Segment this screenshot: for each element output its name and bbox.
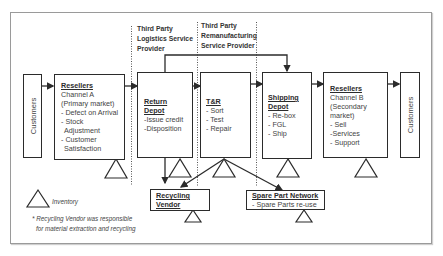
tr-line: - Sort xyxy=(206,106,250,115)
resellers-b-title: Resellers xyxy=(330,84,387,93)
return-depot-line: -Issue credit xyxy=(144,115,192,124)
return-depot-line: -Disposition xyxy=(144,124,192,133)
spare-part-network-title: Spare Part Network xyxy=(252,191,324,200)
shipping-depot-line: - Ship xyxy=(268,129,311,138)
legend-inventory-triangle xyxy=(27,190,49,207)
resellers-a-line: (Primary market) xyxy=(61,99,124,108)
test-and-repair-box: T&R - Sort - Test - Repair xyxy=(200,72,251,158)
return-depot-box: Return Depot -Issue credit -Disposition xyxy=(137,72,193,158)
inventory-triangle-return-depot xyxy=(169,159,191,177)
shipping-depot-title: Shipping xyxy=(268,93,311,102)
recycling-vendor-title: Vendor xyxy=(156,200,209,209)
shipping-depot-box: Shipping Depot - Re-box - FGL - Ship xyxy=(262,72,312,159)
legend-inventory-label: Inventory xyxy=(52,198,78,205)
inventory-triangle-shipping xyxy=(277,159,299,177)
shipping-depot-line: - Re-box xyxy=(268,111,311,120)
recycling-vendor-box: Recycling Vendor xyxy=(150,189,210,211)
resellers-b-line: (Secondary xyxy=(330,102,387,111)
resellers-a-line: Channel A xyxy=(61,90,124,99)
customers-right-box: Customers xyxy=(400,72,420,158)
resellers-channel-a-box: Resellers Channel A (Primary market) - D… xyxy=(54,74,125,160)
customers-left-box: Customers xyxy=(23,74,42,158)
resellers-a-line: - Customer xyxy=(61,135,124,144)
return-depot-title: Return xyxy=(144,97,192,106)
tr-title: T&R xyxy=(206,97,250,106)
spare-part-network-line: - Spare Parts re-use xyxy=(252,200,324,209)
tr-line: - Repair xyxy=(206,124,250,133)
resellers-a-line: - Stock xyxy=(61,117,124,126)
resellers-b-line: -Services xyxy=(330,129,387,138)
inventory-triangle-resellers-a xyxy=(105,159,127,178)
footnote-line: for material extraction and recycling xyxy=(32,224,135,234)
recycling-footnote: * Recycling Vendor was responsible for m… xyxy=(32,214,135,234)
resellers-a-line: Adjustment xyxy=(61,126,124,135)
shipping-depot-title: Depot xyxy=(268,102,311,111)
inventory-triangle-tr xyxy=(213,159,235,177)
customers-right-label: Customers xyxy=(406,97,415,133)
resellers-b-line: market) xyxy=(330,111,387,120)
resellers-b-line: - Sell xyxy=(330,120,387,129)
inventory-triangle-spare-parts xyxy=(296,210,312,222)
resellers-b-line: Channel B xyxy=(330,93,387,102)
footnote-line: * Recycling Vendor was responsible xyxy=(32,214,135,224)
inventory-triangle-recycling xyxy=(185,210,201,222)
resellers-channel-b-box: Resellers Channel B (Secondary market) -… xyxy=(323,72,388,158)
shipping-depot-line: - FGL xyxy=(268,120,311,129)
resellers-b-line: - Support xyxy=(330,138,387,147)
spare-part-network-box: Spare Part Network - Spare Parts re-use xyxy=(246,190,325,210)
resellers-a-title: Resellers xyxy=(61,81,124,90)
tr-line: - Test xyxy=(206,115,250,124)
inventory-triangle-resellers-b xyxy=(355,159,377,177)
resellers-a-line: - Defect on Arrival xyxy=(61,108,124,117)
resellers-a-line: Satisfaction xyxy=(61,144,124,153)
recycling-vendor-title: Recycling xyxy=(156,191,209,200)
return-depot-title: Depot xyxy=(144,106,192,115)
customers-left-label: Customers xyxy=(28,98,37,134)
